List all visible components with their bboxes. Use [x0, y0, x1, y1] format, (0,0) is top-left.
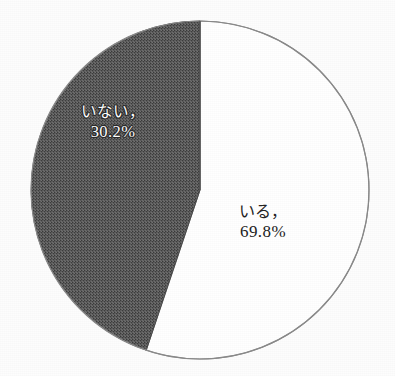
pie-label-inai: いない， 30.2% [58, 103, 168, 142]
pie-chart-canvas [0, 0, 395, 376]
pie-label-iru: いる， 69.8% [208, 202, 318, 242]
pie-chart-figure: いない， 30.2% いる， 69.8% [0, 0, 395, 376]
pie-label-inai-name: いない， [58, 103, 168, 122]
pie-label-inai-value: 30.2% [58, 122, 168, 142]
pie-label-iru-value: 69.8% [208, 222, 318, 243]
pie-label-iru-name: いる， [208, 202, 318, 222]
